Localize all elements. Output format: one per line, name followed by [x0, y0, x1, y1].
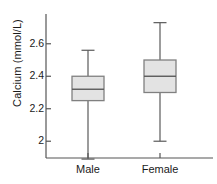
boxplot-chart: Calcium (mmol/L) 2.6 2.4 2.2 2 Male Fema…	[0, 0, 217, 184]
plot-area	[0, 0, 217, 184]
box-female	[144, 23, 176, 142]
box-series-layer	[72, 23, 176, 159]
axis-lines	[46, 14, 213, 158]
x-tick-label-female: Female	[142, 163, 179, 175]
box-male	[72, 50, 104, 159]
x-tick-label-male: Male	[76, 163, 100, 175]
